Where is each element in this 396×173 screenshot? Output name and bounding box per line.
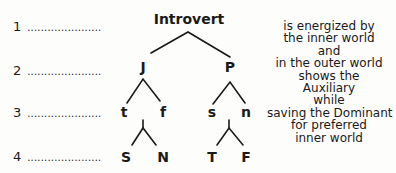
- tree-node-j: J: [140, 60, 145, 74]
- description-text: is energized by the inner world and in t…: [267, 20, 391, 144]
- tree-node-T: T: [207, 150, 217, 164]
- tree-node-t: t: [121, 105, 128, 119]
- tree-node-s: s: [208, 105, 216, 119]
- description-line: inner world: [267, 132, 391, 144]
- tree-node-F: F: [241, 150, 251, 164]
- description-line: for preferred: [267, 119, 391, 131]
- tree-root: Introvert: [154, 12, 225, 26]
- tree-node-f: f: [160, 105, 166, 119]
- tree-node-p: P: [225, 60, 235, 74]
- description-line: while: [267, 94, 391, 106]
- tree-node-S: S: [121, 150, 131, 164]
- tree-node-n: n: [241, 105, 251, 119]
- description-line: in the outer world: [267, 57, 391, 69]
- tree-node-N: N: [157, 150, 169, 164]
- description-line: the inner world: [267, 32, 391, 44]
